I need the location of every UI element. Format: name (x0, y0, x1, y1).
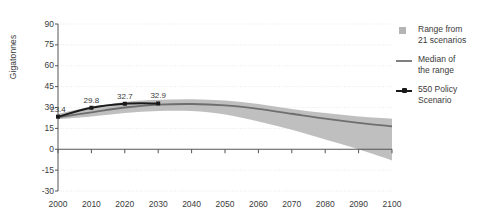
y-axis-title: Gigatonnes (8, 22, 18, 92)
y-tick-label: 0 (32, 145, 54, 154)
x-axis-ticks (58, 149, 392, 153)
legend-item-policy[interactable]: 550 Policy Scenario (396, 84, 481, 105)
legend-policy-line1: 550 Policy (418, 84, 457, 95)
legend-policy-line2: Scenario (418, 95, 457, 106)
x-tick-label: 2060 (241, 200, 275, 209)
legend: Range from 21 scenarios Median of the ra… (396, 24, 481, 114)
median-line-icon (396, 54, 413, 67)
y-tick-label: 45 (32, 82, 54, 91)
legend-median-line2: the range (418, 65, 455, 76)
range-swatch-icon (396, 24, 413, 37)
x-tick-label: 2090 (342, 200, 376, 209)
x-tick-label: 2050 (208, 200, 242, 209)
x-tick-label: 2040 (175, 200, 209, 209)
x-tick-label: 2100 (375, 200, 409, 209)
data-point-label: 32.9 (150, 92, 166, 100)
y-tick-label: -15 (32, 166, 54, 175)
y-tick-label: 90 (32, 20, 54, 29)
x-tick-label: 2000 (41, 200, 75, 209)
data-point-label: 23.4 (50, 106, 66, 114)
policy-line-marker-icon (396, 84, 413, 97)
legend-item-range[interactable]: Range from 21 scenarios (396, 24, 481, 45)
x-tick-label: 2080 (308, 200, 342, 209)
y-tick-label: 15 (32, 124, 54, 133)
x-tick-label: 2030 (141, 200, 175, 209)
legend-median-line1: Median of (418, 54, 455, 65)
x-tick-label: 2070 (275, 200, 309, 209)
legend-range-line2: 21 scenarios (418, 35, 466, 46)
legend-range-line1: Range from (418, 24, 466, 35)
y-tick-label: -30 (32, 187, 54, 196)
emissions-scenario-chart: Gigatonnes 9075604530150-15-30 200020102… (0, 0, 481, 222)
x-tick-label: 2010 (74, 200, 108, 209)
y-tick-label: 75 (32, 40, 54, 49)
data-point-label: 32.7 (117, 93, 133, 101)
data-point-label: 29.8 (84, 97, 100, 105)
y-tick-label: 60 (32, 61, 54, 70)
legend-item-median[interactable]: Median of the range (396, 54, 481, 75)
x-tick-label: 2020 (108, 200, 142, 209)
